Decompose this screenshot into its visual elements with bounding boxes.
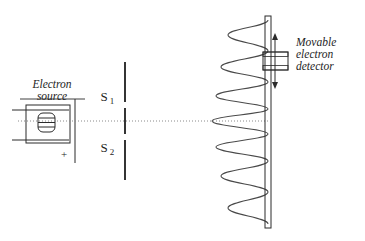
figure-root: + Electron source S 1 S 2 <box>0 0 365 241</box>
detector-label-line3: detector <box>296 60 334 72</box>
interference-intensity-curve <box>212 20 268 224</box>
slit-label-s2-group: S 2 <box>100 140 114 157</box>
slit-subscript-s1: 1 <box>110 96 115 106</box>
electron-source-assembly: + <box>12 99 85 163</box>
slit-label-s1: S <box>100 89 107 104</box>
slit-subscript-s2: 2 <box>110 147 115 157</box>
slit-label-s1-group: S 1 <box>100 89 114 106</box>
source-label-line2: source <box>37 90 67 102</box>
detector-label-line2: electron <box>296 48 334 60</box>
source-polarity-label: + <box>61 148 67 160</box>
electron-gun-filament-icon <box>38 113 55 132</box>
source-label-line1: Electron <box>31 78 71 90</box>
electron-double-slit-diagram: + Electron source S 1 S 2 <box>0 0 365 241</box>
detector-arrow-head-up <box>272 33 278 40</box>
slit-label-s2: S <box>100 140 107 155</box>
detector-arrow-head-down <box>272 82 278 89</box>
source-enclosure <box>26 105 70 143</box>
movable-detector-arrow[interactable] <box>272 33 278 89</box>
detector-label-line1: Movable <box>295 36 336 48</box>
detection-screen <box>265 16 271 228</box>
